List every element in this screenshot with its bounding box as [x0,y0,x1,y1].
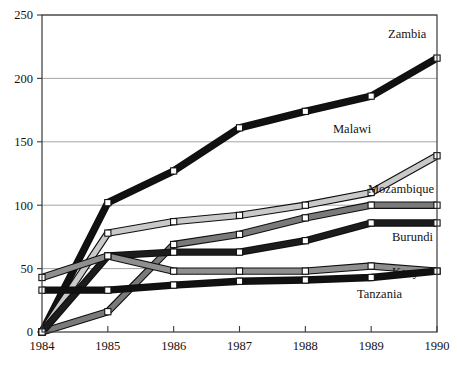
data-point-marker [105,309,111,315]
data-point-marker [368,263,374,269]
data-point-marker [302,268,308,274]
line-chart: 050100150200250 198419851986198719881989… [0,0,457,367]
x-axis-tick-label: 1985 [95,339,120,353]
data-point-marker [105,253,111,259]
y-axis-tick-labels: 050100150200250 [14,8,33,339]
x-axis-tick-label: 1990 [425,339,450,353]
data-point-marker [302,277,308,283]
data-point-marker [368,202,374,208]
series-label-burundi: Burundi [392,230,434,244]
series-label-kenya: Kenya [392,265,425,279]
data-point-marker [302,215,308,221]
y-axis-tick-label: 250 [14,8,33,22]
data-point-marker [236,212,242,218]
data-point-marker [105,230,111,236]
x-axis-tick-label: 1987 [227,339,252,353]
y-axis-tick-label: 100 [14,199,33,213]
data-point-marker [302,108,308,114]
series-label-tanzania: Tanzania [357,287,402,301]
data-point-marker [302,202,308,208]
data-point-marker [236,268,242,274]
x-axis-tick-label: 1984 [30,339,56,353]
x-axis-ticks [42,326,437,332]
data-point-marker [171,249,177,255]
data-point-marker [236,125,242,131]
data-point-marker [368,220,374,226]
x-axis-tick-label: 1989 [359,339,384,353]
data-point-marker [171,168,177,174]
data-point-marker [236,278,242,284]
data-point-marker [368,93,374,99]
y-axis-tick-label: 150 [14,135,33,149]
y-axis-tick-label: 200 [14,72,33,86]
series-label-zambia: Zambia [388,27,427,41]
series-label-mozambique: Mozambique [368,182,434,196]
y-axis-tick-label: 0 [27,325,33,339]
data-point-marker [236,231,242,237]
data-point-marker [171,219,177,225]
chart-canvas: 050100150200250 198419851986198719881989… [0,0,457,367]
data-point-marker [171,268,177,274]
series-label-malawi: Malawi [333,122,372,136]
data-point-marker [171,241,177,247]
data-point-marker [105,287,111,293]
y-axis-tick-label: 50 [21,262,34,276]
x-axis-tick-labels: 1984198519861987198819891990 [30,339,450,353]
x-axis-tick-label: 1986 [161,339,186,353]
x-axis-tick-label: 1988 [293,339,318,353]
data-point-marker [171,282,177,288]
data-point-marker [105,200,111,206]
data-point-marker [302,238,308,244]
data-point-marker [368,274,374,280]
data-point-marker [236,249,242,255]
